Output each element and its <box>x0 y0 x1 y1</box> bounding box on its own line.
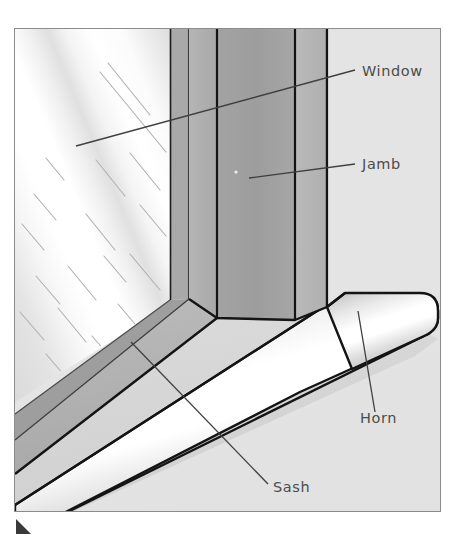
jamb-right-face <box>295 29 327 320</box>
label-sash: Sash <box>273 479 310 495</box>
window-parts-diagram: Window Jamb Horn Sash <box>0 0 453 538</box>
jamb-front-face <box>217 29 295 320</box>
label-window: Window <box>362 63 423 79</box>
illustration-canvas: Window Jamb Horn Sash <box>0 0 453 538</box>
label-jamb: Jamb <box>361 156 401 172</box>
jamb-post <box>189 29 327 320</box>
jamb-highlight-dot <box>234 170 237 173</box>
label-horn: Horn <box>360 410 397 426</box>
frame-vertical-inner <box>170 29 189 300</box>
jamb-left-face <box>189 29 217 318</box>
